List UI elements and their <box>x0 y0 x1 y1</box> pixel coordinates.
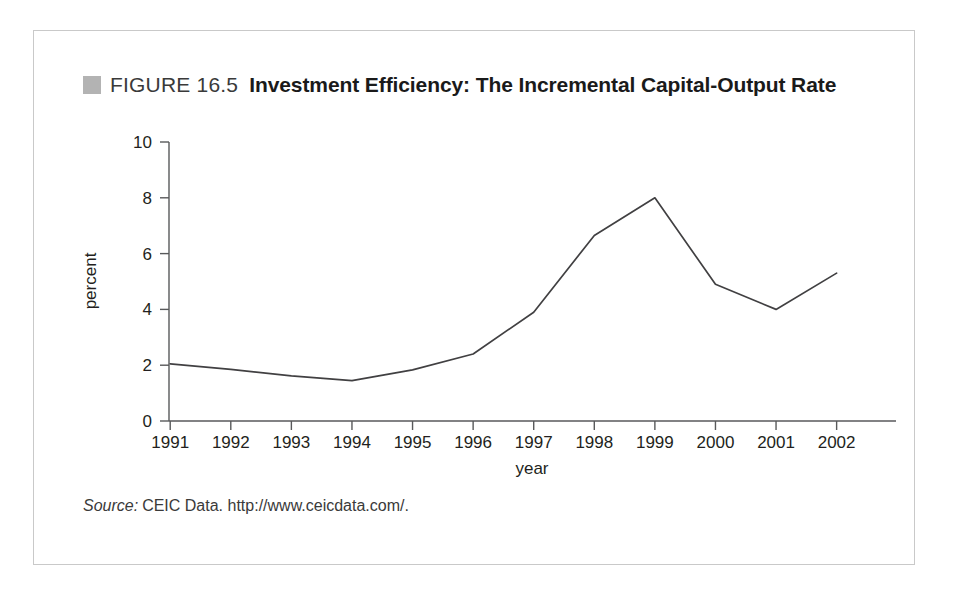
x-tick-label: 1999 <box>636 433 674 452</box>
x-tick-label: 1995 <box>394 433 432 452</box>
y-tick-label: 10 <box>133 133 152 152</box>
source-label: Source: <box>83 497 138 514</box>
x-axis-tick-labels: 1991199219931994199519961997199819992000… <box>151 433 855 452</box>
chart-plot-area: 0246810 19911992199319941995199619971998… <box>34 31 916 566</box>
y-axis-tick-labels: 0246810 <box>133 133 152 431</box>
x-axis-ticks <box>170 421 836 430</box>
figure-card: FIGURE 16.5 Investment Efficiency: The I… <box>33 30 915 565</box>
chart-axes <box>169 142 896 421</box>
data-series-line <box>170 198 836 381</box>
source-note: Source:CEIC Data. http://www.ceicdata.co… <box>83 497 409 515</box>
y-tick-label: 8 <box>143 189 152 208</box>
y-tick-label: 0 <box>143 412 152 431</box>
x-tick-label: 2000 <box>697 433 735 452</box>
y-tick-label: 4 <box>143 300 152 319</box>
y-axis-ticks <box>160 142 169 421</box>
x-tick-label: 1998 <box>575 433 613 452</box>
x-tick-label: 1992 <box>212 433 250 452</box>
y-tick-label: 2 <box>143 356 152 375</box>
x-tick-label: 1991 <box>151 433 189 452</box>
x-axis-title: year <box>515 459 548 478</box>
source-text: CEIC Data. http://www.ceicdata.com/. <box>142 497 409 514</box>
x-tick-label: 1996 <box>454 433 492 452</box>
x-tick-label: 2001 <box>757 433 795 452</box>
line-chart-svg: 0246810 19911992199319941995199619971998… <box>34 31 916 566</box>
x-tick-label: 1994 <box>333 433 371 452</box>
x-tick-label: 2002 <box>818 433 856 452</box>
x-tick-label: 1997 <box>515 433 553 452</box>
y-axis-title: percent <box>81 252 100 309</box>
y-tick-label: 6 <box>143 245 152 264</box>
x-tick-label: 1993 <box>272 433 310 452</box>
